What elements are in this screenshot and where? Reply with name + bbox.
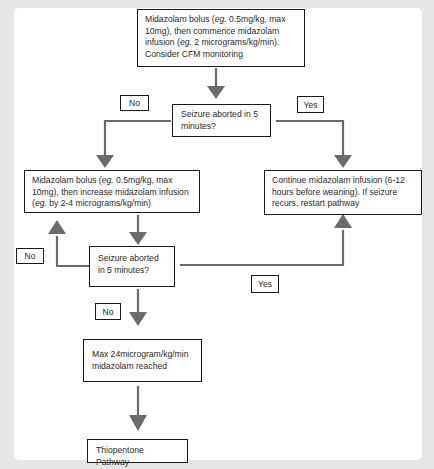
thiopentone-pathway-box: Thiopentone Pathway (87, 439, 188, 463)
decision-box-2: Seizure aborted in 5 minutes? (89, 246, 175, 287)
max-reached-box: Max 24microgram/kg/min midazolam reached (83, 339, 202, 382)
increase-infusion-box: Midazolam bolus (eg. 0.5mg/kg, max 10mg)… (24, 170, 200, 213)
edge-label-no-1: No (120, 95, 149, 111)
edge-label-yes-1: Yes (297, 96, 324, 113)
edge-label-no-down: No (95, 303, 121, 320)
edge-label-yes-2: Yes (251, 275, 279, 293)
edge-label-no-loop: No (16, 248, 44, 264)
connector-arrows (0, 0, 434, 469)
start-box: Midazolam bolus (eg. 0.5mg/kg, max 10mg)… (137, 9, 305, 67)
continue-infusion-box: Continue midazolam infusion (6-12 hours … (264, 170, 422, 215)
decision-box-1: Seizure aborted in 5 minutes? (172, 104, 271, 137)
